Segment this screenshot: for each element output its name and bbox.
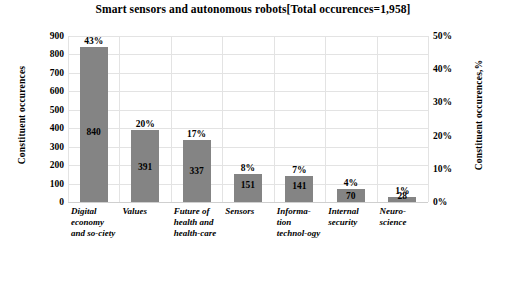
bar-value-label: 391 bbox=[138, 162, 152, 172]
y-axis-tick-right: 30% bbox=[433, 97, 452, 107]
y-axis-tick-left: 0 bbox=[59, 197, 64, 207]
bar-value-label: 337 bbox=[189, 166, 203, 176]
y-axis-tick-right: 20% bbox=[433, 131, 452, 141]
y-axis-tick-right: 50% bbox=[433, 31, 452, 41]
bar-percent-label: 7% bbox=[292, 165, 306, 175]
bar-percent-label: 43% bbox=[84, 36, 103, 46]
x-axis-category-label: Future of health and health-care bbox=[174, 206, 219, 239]
y-axis-tick-right: 40% bbox=[433, 64, 452, 74]
x-axis-category-label: Neuro-science bbox=[380, 206, 425, 228]
bar-value-label: 141 bbox=[292, 181, 306, 191]
bar-group[interactable]: 39120% bbox=[119, 36, 170, 202]
bar-percent-label: 8% bbox=[241, 163, 255, 173]
x-axis-category-label: Values bbox=[122, 206, 167, 217]
bar-percent-label: 4% bbox=[344, 178, 358, 188]
bar-group[interactable]: 704% bbox=[325, 36, 376, 202]
bar-group[interactable]: 84043% bbox=[68, 36, 119, 202]
plot-area: 01002003004005006007008009000%10%20%30%4… bbox=[68, 36, 428, 202]
bar-value-label: 151 bbox=[241, 180, 255, 190]
y-axis-tick-left: 400 bbox=[50, 123, 64, 133]
y-axis-tick-right: 10% bbox=[433, 164, 452, 174]
y-axis-tick-left: 500 bbox=[50, 105, 64, 115]
x-axis-category-label: Digital economy and so-ciety bbox=[71, 206, 116, 239]
y-axis-tick-left: 800 bbox=[50, 49, 64, 59]
x-axis-category-label: Informa-tion technol-ogy bbox=[277, 206, 322, 239]
bar-group[interactable]: 33717% bbox=[171, 36, 222, 202]
bar-group[interactable]: 1417% bbox=[274, 36, 325, 202]
y-axis-tick-left: 600 bbox=[50, 86, 64, 96]
gridline-vertical bbox=[428, 36, 429, 202]
bar-group[interactable]: 281% bbox=[377, 36, 428, 202]
bar-chart: Smart sensors and autonomous robots[Tota… bbox=[0, 0, 506, 286]
bar-value-label: 70 bbox=[346, 191, 356, 201]
bar-group[interactable]: 1518% bbox=[222, 36, 273, 202]
bar-percent-label: 17% bbox=[187, 129, 206, 139]
y-axis-tick-left: 300 bbox=[50, 142, 64, 152]
y-axis-tick-left: 100 bbox=[50, 179, 64, 189]
bar-percent-label: 20% bbox=[136, 119, 155, 129]
gridline-horizontal bbox=[68, 202, 428, 203]
bar-percent-label: 1% bbox=[395, 186, 409, 196]
y-axis-title-right: Constituent occurences,% bbox=[474, 50, 484, 180]
bar-value-label: 840 bbox=[87, 127, 101, 137]
bar[interactable] bbox=[80, 47, 108, 202]
y-axis-tick-left: 200 bbox=[50, 160, 64, 170]
y-axis-tick-left: 700 bbox=[50, 68, 64, 78]
y-axis-tick-left: 900 bbox=[50, 31, 64, 41]
y-axis-title-left: Constituent occurences bbox=[17, 50, 27, 180]
chart-title: Smart sensors and autonomous robots[Tota… bbox=[0, 2, 506, 16]
x-axis-category-label: Sensors bbox=[225, 206, 270, 217]
x-axis-category-label: Internal security bbox=[328, 206, 373, 228]
y-axis-tick-right: 0% bbox=[433, 197, 447, 207]
